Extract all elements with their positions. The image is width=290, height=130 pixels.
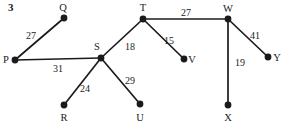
node-label-s: S xyxy=(94,42,100,53)
edge-weight-label: 29 xyxy=(125,76,135,86)
graph-canvas xyxy=(0,0,290,130)
edge-weight-label: 27 xyxy=(181,8,191,18)
node-label-v: V xyxy=(188,55,196,66)
edge-weight-label: 15 xyxy=(164,36,174,46)
edge-layer xyxy=(15,18,268,105)
graph-edge xyxy=(101,19,143,58)
graph-node-u xyxy=(137,101,144,108)
graph-node-p xyxy=(12,57,19,64)
edge-weight-label: 41 xyxy=(250,31,260,41)
edge-weight-label: 31 xyxy=(53,64,63,74)
edge-weight-label: 18 xyxy=(125,42,135,52)
edge-weight-label: 19 xyxy=(235,58,245,68)
graph-node-t xyxy=(140,16,147,23)
graph-node-s xyxy=(98,55,105,62)
graph-edge xyxy=(15,58,101,60)
node-label-x: X xyxy=(224,113,232,124)
graph-edge xyxy=(15,18,64,60)
node-label-w: W xyxy=(223,4,233,15)
graph-node-w xyxy=(225,16,232,23)
node-label-u: U xyxy=(136,113,144,124)
graph-node-q xyxy=(61,15,68,22)
graph-node-r xyxy=(61,102,68,109)
node-label-q: Q xyxy=(59,3,67,14)
node-label-t: T xyxy=(140,3,146,14)
graph-node-v xyxy=(181,56,188,63)
graph-edge xyxy=(64,58,101,105)
edge-weight-label: 27 xyxy=(26,31,36,41)
node-label-p: P xyxy=(3,55,9,66)
node-label-r: R xyxy=(60,113,67,124)
graph-node-y xyxy=(265,54,272,61)
edge-weight-label: 24 xyxy=(80,84,90,94)
node-label-y: Y xyxy=(273,53,281,64)
graph-figure: 3 273124291815271941PQRSTUVWXY xyxy=(0,0,290,130)
graph-edge xyxy=(228,19,268,57)
graph-node-x xyxy=(225,102,232,109)
